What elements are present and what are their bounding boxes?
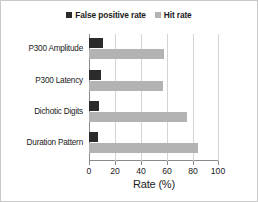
xtick-80 <box>193 161 194 165</box>
bar-group-dichotic-digits: Dichotic Digits <box>89 101 219 128</box>
legend-label-hit-rate: Hit rate <box>164 10 192 20</box>
xtick-60 <box>167 161 168 165</box>
plot-area: P300 Amplitude P300 Latency Dichotic Dig… <box>89 34 219 161</box>
x-axis-line <box>89 160 219 161</box>
category-label-p300-latency: P300 Latency <box>0 76 83 85</box>
bar-false-positive-rate-duration-pattern <box>89 132 98 142</box>
bar-false-positive-rate-p300-amplitude <box>89 38 103 48</box>
legend-swatch-hit-rate <box>155 12 161 18</box>
bar-hit-rate-duration-pattern <box>89 143 198 153</box>
xtick-20 <box>115 161 116 165</box>
bar-hit-rate-p300-latency <box>89 81 163 91</box>
xtick-0 <box>89 161 90 165</box>
category-label-duration-pattern: Duration Pattern <box>0 138 83 147</box>
xtick-label-100: 100 <box>203 166 233 176</box>
chart-legend: False positive rate Hit rate <box>1 10 257 20</box>
x-axis-title: Rate (%) <box>89 178 219 190</box>
legend-item-false-positive-rate: False positive rate <box>66 10 146 20</box>
category-label-dichotic-digits: Dichotic Digits <box>0 107 83 116</box>
bar-hit-rate-p300-amplitude <box>89 49 164 59</box>
legend-label-false-positive-rate: False positive rate <box>75 10 146 20</box>
bar-group-duration-pattern: Duration Pattern <box>89 132 219 159</box>
legend-item-hit-rate: Hit rate <box>155 10 192 20</box>
bar-false-positive-rate-p300-latency <box>89 70 101 80</box>
xtick-40 <box>141 161 142 165</box>
legend-swatch-false-positive-rate <box>66 12 72 18</box>
xtick-100 <box>218 161 219 165</box>
category-label-p300-amplitude: P300 Amplitude <box>0 44 83 53</box>
chart-container: False positive rate Hit rate P300 Amplit… <box>0 0 258 202</box>
bar-group-p300-amplitude: P300 Amplitude <box>89 38 219 65</box>
bar-false-positive-rate-dichotic-digits <box>89 101 99 111</box>
bar-group-p300-latency: P300 Latency <box>89 70 219 97</box>
bar-hit-rate-dichotic-digits <box>89 112 187 122</box>
